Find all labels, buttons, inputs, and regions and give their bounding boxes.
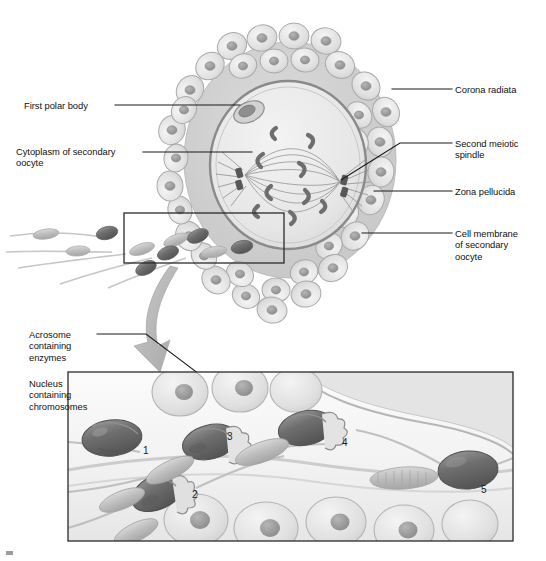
label-acrosome-containing-enzymes: Acrosome containing enzymes xyxy=(29,329,71,363)
label-first-polar-body: First polar body xyxy=(24,100,88,111)
secondary-oocyte xyxy=(210,81,366,249)
label-zona-pellucida: Zona pellucida xyxy=(455,186,515,197)
label-second-meiotic-spindle: Second meiotic spindle xyxy=(455,138,518,161)
stage-number-5: 5 xyxy=(481,484,487,495)
stage-number-4: 4 xyxy=(342,437,348,448)
stage-number-3: 3 xyxy=(227,431,233,442)
lower-panel xyxy=(68,364,513,555)
upper-panel xyxy=(6,22,405,372)
label-cytoplasm-of-secondary-oocyte: Cytoplasm of secondary oocyte xyxy=(16,146,115,169)
stage-number-1: 1 xyxy=(143,445,149,456)
label-cell-membrane-of-secondary-oocyte: Cell membrane of secondary oocyte xyxy=(455,228,518,262)
scan-artifact xyxy=(6,551,13,555)
label-corona-radiata: Corona radiata xyxy=(455,84,516,95)
label-nucleus-containing-chromosomes: Nucleus containing chromosomes xyxy=(29,378,87,412)
cell-membrane xyxy=(210,81,366,249)
stage-number-2: 2 xyxy=(192,489,198,500)
magnification-arrow xyxy=(134,266,178,372)
